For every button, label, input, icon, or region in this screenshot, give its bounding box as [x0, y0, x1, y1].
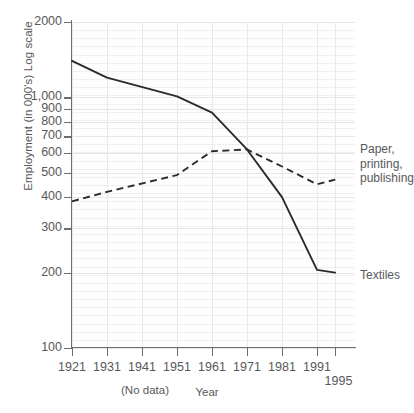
gridline-horizontal — [72, 95, 355, 96]
x-axis-tick — [107, 348, 108, 356]
gridline-horizontal — [72, 177, 355, 178]
plot-area — [72, 22, 355, 348]
y-axis-tick-label: 200 — [41, 266, 62, 279]
gridline-horizontal — [72, 128, 355, 129]
y-axis-tick-label: 400 — [41, 190, 62, 203]
y-axis-tick-label: 300 — [41, 221, 62, 234]
gridline-horizontal — [72, 169, 355, 170]
gridline-horizontal — [72, 38, 355, 39]
gridline-horizontal — [72, 242, 355, 243]
y-axis-tick-label: 800 — [41, 115, 62, 128]
x-axis-tick — [282, 348, 283, 356]
x-axis-tick-label: 1971 — [233, 360, 261, 374]
x-axis-tick — [212, 348, 213, 356]
gridline-horizontal — [72, 55, 355, 56]
y-axis-tick-label: 500 — [41, 166, 62, 179]
gridline-vertical — [177, 22, 178, 348]
gridline-vertical — [212, 22, 213, 348]
x-axis-tick-label: 1931 — [93, 360, 121, 374]
gridline-horizontal — [72, 144, 355, 145]
gridline-horizontal-major — [72, 273, 355, 274]
no-data-annotation: (No data) — [100, 384, 190, 396]
gridline-vertical — [335, 22, 336, 348]
y-axis-tick — [64, 122, 72, 123]
gridline-horizontal — [72, 324, 355, 325]
series-label-paper-line1: Paper, — [360, 142, 414, 157]
y-axis-tick-label: 600 — [41, 146, 62, 159]
y-axis-tick — [64, 197, 72, 198]
y-axis-line — [71, 20, 72, 349]
y-axis-title: Employment (in 000's) Log scale — [22, 6, 34, 206]
x-axis-tick-label: 1981 — [268, 360, 296, 374]
series-label-paper-line3: publishing — [360, 171, 414, 186]
y-axis-tick — [64, 153, 72, 154]
y-axis-tick — [64, 109, 72, 110]
y-axis-tick — [64, 173, 72, 174]
x-axis-tick — [335, 348, 336, 356]
gridline-horizontal — [72, 201, 355, 202]
gridline-horizontal — [72, 46, 355, 47]
gridline-horizontal — [72, 87, 355, 88]
gridline-horizontal — [72, 185, 355, 186]
gridline-horizontal — [72, 267, 355, 268]
y-axis-tick — [64, 228, 72, 229]
x-axis-line — [71, 347, 356, 348]
y-axis-tick-label: 900 — [41, 102, 62, 115]
x-axis-tick-label: 1961 — [198, 360, 226, 374]
gridline-horizontal — [72, 209, 355, 210]
x-axis-tick-label: 1941 — [128, 360, 156, 374]
x-axis-tick — [177, 348, 178, 356]
x-axis-tick — [317, 348, 318, 356]
gridline-vertical — [282, 22, 283, 348]
gridline-horizontal — [72, 315, 355, 316]
gridline-horizontal-major — [72, 136, 355, 137]
gridline-vertical — [247, 22, 248, 348]
x-axis-tick — [247, 348, 248, 356]
x-axis-tick-label: 1951 — [163, 360, 191, 374]
series-label-paper-line2: printing, — [360, 157, 414, 172]
x-axis-title: Year — [0, 386, 414, 398]
gridline-horizontal — [72, 30, 355, 31]
gridline-vertical — [142, 22, 143, 348]
y-axis-tick-label: 700 — [41, 129, 62, 142]
y-axis-tick — [64, 273, 72, 274]
y-axis-tick — [64, 348, 72, 349]
gridline-horizontal — [72, 104, 355, 105]
gridline-horizontal — [72, 71, 355, 72]
series-label-paper: Paper, printing, publishing — [360, 142, 414, 186]
series-label-textiles: Textiles — [360, 268, 400, 283]
gridline-horizontal — [72, 250, 355, 251]
gridline-horizontal — [72, 112, 355, 113]
y-axis-tick — [64, 136, 72, 137]
x-axis-tick — [72, 348, 73, 356]
gridline-horizontal — [72, 283, 355, 284]
employment-log-chart: 20001,000900800700600500400300200100 192… — [0, 0, 414, 413]
gridline-horizontal-major — [72, 122, 355, 123]
gridline-vertical — [317, 22, 318, 348]
gridline-horizontal — [72, 234, 355, 235]
gridline-horizontal-major — [72, 153, 355, 154]
gridline-horizontal — [72, 258, 355, 259]
gridline-horizontal — [72, 193, 355, 194]
x-axis-tick-label: 1921 — [58, 360, 86, 374]
gridline-horizontal — [72, 218, 355, 219]
y-axis-tick-label: 100 — [41, 341, 62, 354]
gridline-horizontal — [72, 161, 355, 162]
gridline-horizontal — [72, 120, 355, 121]
gridline-vertical — [107, 22, 108, 348]
gridline-horizontal-major — [72, 97, 355, 98]
gridline-horizontal — [72, 63, 355, 64]
x-axis-tick-label: 1991 — [303, 360, 331, 374]
x-axis-tick — [142, 348, 143, 356]
gridline-horizontal — [72, 307, 355, 308]
gridline-horizontal — [72, 226, 355, 227]
gridline-horizontal — [72, 332, 355, 333]
gridline-horizontal-major — [72, 197, 355, 198]
gridline-horizontal — [72, 79, 355, 80]
gridline-horizontal — [72, 291, 355, 292]
gridline-horizontal-major — [72, 22, 355, 23]
gridline-horizontal-major — [72, 228, 355, 229]
gridline-horizontal — [72, 340, 355, 341]
y-axis-tick-label: 2000 — [34, 15, 62, 28]
y-axis-tick — [64, 97, 72, 98]
